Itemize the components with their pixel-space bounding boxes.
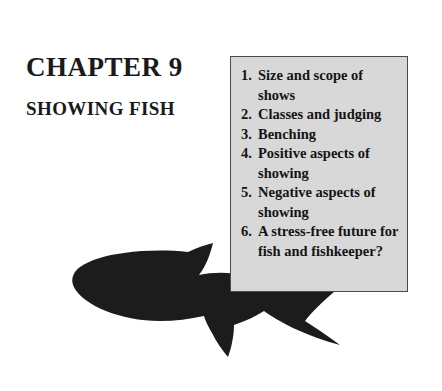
list-item-label: Positive aspects of showing: [258, 145, 370, 181]
list-item: 2. Classes and judging: [241, 105, 401, 125]
chapter-heading-block: CHAPTER 9 SHOWING FISH: [26, 52, 216, 120]
list-item: 4. Positive aspects of showing: [241, 144, 401, 183]
list-item: 6. A stress-free future for fish and fis…: [241, 222, 401, 261]
list-item: 5. Negative aspects of showing: [241, 183, 401, 222]
chapter-contents-box: 1. Size and scope of shows 2. Classes an…: [230, 56, 408, 292]
list-item-label: Size and scope of shows: [258, 67, 363, 103]
page-title: CHAPTER 9: [26, 52, 216, 82]
list-item: 1. Size and scope of shows: [241, 66, 401, 105]
list-item-number: 3.: [241, 125, 252, 145]
list-item-label: Classes and judging: [258, 106, 381, 122]
list-item-number: 4.: [241, 144, 252, 164]
list-item-number: 1.: [241, 66, 252, 86]
list-item-number: 6.: [241, 222, 252, 242]
chapter-opener-page: CHAPTER 9 SHOWING FISH 1. Size and scope…: [0, 0, 442, 391]
list-item-number: 2.: [241, 105, 252, 125]
contents-list: 1. Size and scope of shows 2. Classes an…: [231, 57, 407, 261]
list-item: 3. Benching: [241, 125, 401, 145]
list-item-label: Benching: [258, 126, 316, 142]
list-item-label: A stress-free future for fish and fishke…: [258, 223, 398, 259]
chapter-subtitle: SHOWING FISH: [26, 98, 216, 120]
list-item-number: 5.: [241, 183, 252, 203]
list-item-label: Negative aspects of showing: [258, 184, 376, 220]
